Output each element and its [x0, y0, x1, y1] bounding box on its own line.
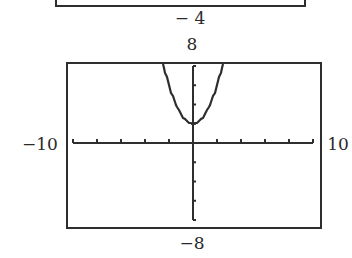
axes: [73, 66, 313, 220]
graph-plot-area: [0, 0, 352, 258]
